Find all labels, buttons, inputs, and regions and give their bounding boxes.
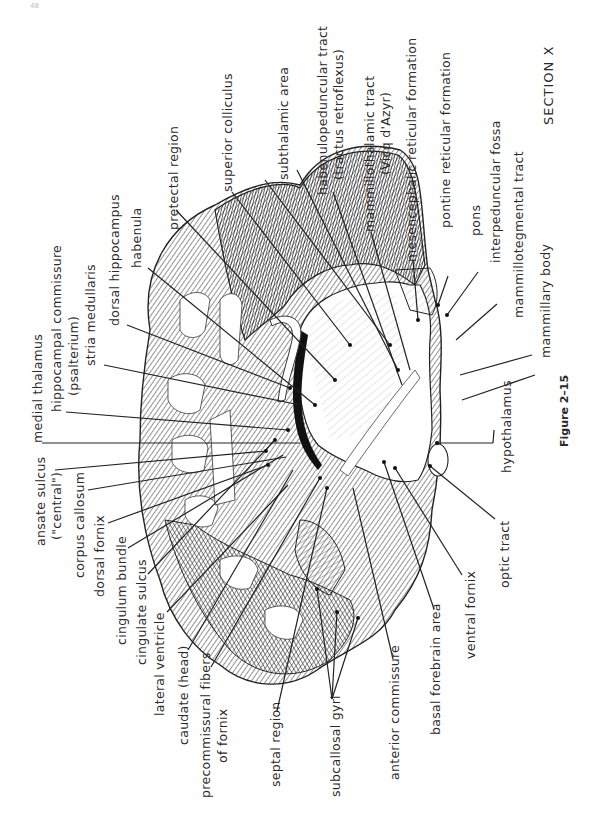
brain-section-figure: 48 — [0, 0, 604, 834]
label-mammillary-body: mammillary body — [538, 244, 553, 358]
brain-illustration — [139, 146, 448, 684]
label-mammillotegmental-tract: mammillotegmental tract — [511, 151, 526, 318]
label-of-fornix: of fornix — [215, 709, 230, 763]
label-septal-region: septal region — [268, 701, 283, 787]
label-mammillothalamic-tract: mammillothalamic tract — [362, 76, 377, 232]
label-central: ("central") — [49, 472, 64, 540]
label-interpeduncular-fossa: interpeduncular fossa — [488, 120, 503, 263]
label-mesencephalic-reticular-formation: mesencephalic reticular formation — [404, 38, 419, 262]
label-vicq-dazyr: (Vicq d'Azyr) — [378, 92, 393, 175]
label-ansate-sulcus: ansate sulcus — [33, 457, 48, 546]
label-basal-forebrain-area: basal forebrain area — [428, 603, 443, 735]
label-subcallosal-gyri: subcallosal gyri — [328, 695, 343, 797]
label-hypothalamus: hypothalamus — [499, 380, 514, 473]
page-number: 48 — [30, 2, 39, 10]
label-cingulum-bundle: cingulum bundle — [114, 536, 129, 645]
section-title: SECTION X — [541, 46, 556, 125]
label-habenulopeduncular-tract: habenulopeduncular tract — [315, 26, 330, 195]
label-tractus-retroflexus: (tractus retroflexus) — [331, 49, 346, 180]
label-dorsal-fornix: dorsal fornix — [92, 515, 107, 597]
label-pontine-reticular-formation: pontine reticular formation — [438, 52, 453, 228]
label-pretectal-region: pretectal region — [166, 126, 181, 230]
optic-tract-shape — [428, 444, 448, 476]
label-optic-tract: optic tract — [497, 520, 512, 588]
label-psalterium: (psalterium) — [66, 316, 81, 396]
label-precommissural-fibers: precommissural fibers — [198, 653, 213, 798]
label-anterior-commissure: anterior commissure — [387, 645, 402, 780]
label-superior-colliculus: superior colliculus — [220, 73, 235, 192]
label-hippocampal-commissure: hippocampal commissure — [49, 245, 64, 412]
label-medial-thalamus: medial thalamus — [30, 334, 45, 443]
label-cingulate-sulcus: cingulate sulcus — [134, 559, 149, 665]
label-lateral-ventricle: lateral ventricle — [152, 612, 167, 716]
label-dorsal-hippocampus: dorsal hippocampus — [107, 194, 122, 326]
label-stria-medullaris: stria medullaris — [83, 264, 98, 366]
figure-caption: Figure 2–15 — [558, 375, 571, 447]
label-habenula: habenula — [129, 207, 144, 268]
label-pons: pons — [468, 205, 483, 236]
label-caudate-head: caudate (head) — [176, 645, 191, 745]
label-corpus-callosum: corpus callosum — [72, 472, 87, 578]
label-ventral-fornix: ventral fornix — [463, 571, 478, 659]
label-subthalamic-area: subthalamic area — [276, 67, 291, 180]
